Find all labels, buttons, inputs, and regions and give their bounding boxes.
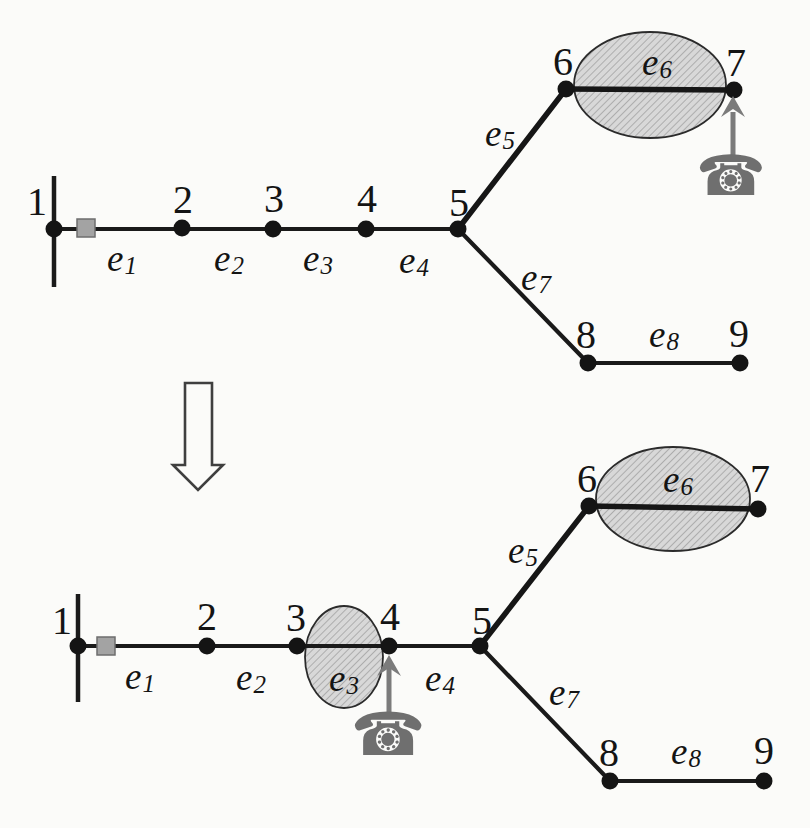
node-label-5-before: 5 [449,180,469,225]
node-3-before [265,221,282,238]
node-label-9-after: 9 [754,728,774,773]
diagram-after: ☎ 1 2 3 4 5 6 7 8 9 e1 e2 e3 e4 e5 e6 e7… [52,447,774,790]
node-2-after [199,638,216,655]
edge-label-e2-before: e2 [214,238,244,279]
edge-label-e7-after: e7 [549,672,580,713]
edge-e5-after [480,506,589,646]
tap-square-after [97,637,115,655]
node-label-4-after: 4 [380,594,400,639]
edge-e7-after [480,646,610,781]
edge-e5-before [458,89,566,229]
phone-icon-before: ☎ [696,143,766,208]
node-label-6-before: 6 [553,39,573,84]
node-4-before [358,221,375,238]
node-label-3-after: 3 [286,595,306,640]
diagram-before: ☎ 1 2 3 4 5 6 7 8 9 e1 e2 e3 e4 e5 e6 e7… [27,32,766,372]
node-label-7-before: 7 [726,40,746,85]
phone-icon-after: ☎ [351,699,426,769]
edge-label-e3-before: e3 [303,238,333,279]
node-label-2-after: 2 [197,594,217,639]
edge-label-e4-before: e4 [399,240,429,281]
node-9-before [732,355,749,372]
node-label-1-after: 1 [52,598,72,643]
edge-label-e7-before: e7 [521,257,552,298]
node-label-6-after: 6 [577,456,597,501]
node-label-3-before: 3 [264,176,284,221]
edge-label-e2-after: e2 [236,657,266,698]
node-label-2-before: 2 [173,177,193,222]
node-label-8-after: 8 [599,730,619,775]
figure-canvas: ☎ 1 2 3 4 5 6 7 8 9 e1 e2 e3 e4 e5 e6 e7… [0,0,810,828]
node-label-5-after: 5 [472,598,492,643]
edge-label-e4-after: e4 [425,658,455,699]
node-2-before [174,220,191,237]
edge-label-e1-before: e1 [107,238,137,279]
edge-label-e5-before: e5 [485,113,515,154]
node-4-after [381,638,398,655]
tap-square-before [77,219,95,237]
node-label-1-before: 1 [27,179,47,224]
edge-label-e1-after: e1 [125,656,155,697]
edge-e6-after [589,506,758,509]
node-7-after [750,501,767,518]
edge-label-e5-after: e5 [508,530,538,571]
node-3-after [289,638,306,655]
node-label-7-after: 7 [750,456,770,501]
node-9-after [756,773,773,790]
node-label-9-before: 9 [729,311,749,356]
edge-e6-before [566,89,734,90]
transform-arrow-down [173,383,223,490]
node-8-before [580,355,597,372]
node-label-8-before: 8 [576,312,596,357]
edge-label-e8-after: e8 [671,731,701,772]
edge-label-e8-before: e8 [649,314,679,355]
node-8-after [602,773,619,790]
node-1-after [70,638,87,655]
node-label-4-before: 4 [357,176,377,221]
node-1-before [46,221,63,238]
